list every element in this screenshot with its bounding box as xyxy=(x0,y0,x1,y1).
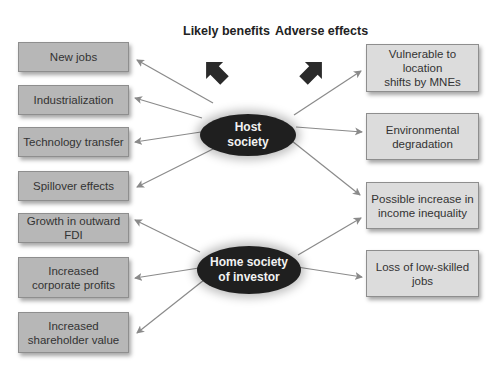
benefit-label-line: shareholder value xyxy=(28,333,119,347)
fdi-effects-diagram: Likely benefits Adverse effects New jobs… xyxy=(0,0,504,374)
adverse-box-income-inequality: Possible increase in income inequality xyxy=(366,182,479,229)
adverse-box-location-shifts: Vulnerable to location shifts by MNEs xyxy=(366,44,479,92)
adverse-label-line: shifts by MNEs xyxy=(384,75,461,89)
adverse-block-arrow-icon xyxy=(295,54,330,89)
likely-benefits-heading: Likely benefits xyxy=(183,24,270,38)
arrow-host-new-jobs xyxy=(137,60,213,103)
host-label-line: Host xyxy=(235,120,262,135)
benefit-box-spillover-effects: Spillover effects xyxy=(18,171,129,201)
adverse-label-line: Vulnerable to location xyxy=(371,47,474,75)
arrow-host-environmental xyxy=(296,127,362,132)
adverse-label-line: Possible increase in xyxy=(371,192,473,206)
benefit-box-outward-fdi: Growth in outward FDI xyxy=(18,213,129,243)
adverse-box-low-skilled-jobs: Loss of low-skilled jobs xyxy=(366,250,479,297)
benefit-box-shareholder-value: Increased shareholder value xyxy=(18,312,129,353)
adverse-label-line: Loss of low-skilled xyxy=(376,260,469,274)
home-label-line: Home society xyxy=(210,255,288,270)
benefit-box-corporate-profits: Increased corporate profits xyxy=(18,257,129,298)
benefit-label: Technology transfer xyxy=(23,135,123,149)
adverse-effects-heading: Adverse effects xyxy=(275,24,368,38)
arrow-home-corporate-profits xyxy=(135,268,199,278)
arrow-home-outward-fdi xyxy=(135,220,200,252)
benefit-label: Spillover effects xyxy=(33,179,114,193)
home-society-node: Home society of investor xyxy=(197,246,301,294)
arrow-host-industrialization xyxy=(135,98,202,118)
benefit-label-line: Increased xyxy=(48,264,99,278)
adverse-label-line: jobs xyxy=(412,274,433,288)
benefit-box-new-jobs: New jobs xyxy=(18,42,129,72)
arrow-home-inequality xyxy=(298,218,361,255)
adverse-label-line: income inequality xyxy=(378,206,467,220)
benefits-block-arrow-icon xyxy=(198,54,233,89)
benefit-box-technology-transfer: Technology transfer xyxy=(18,127,129,157)
benefit-label-line: corporate profits xyxy=(32,278,115,292)
arrow-host-technology-transfer xyxy=(135,132,201,142)
arrow-host-spillover xyxy=(137,148,215,187)
adverse-label-line: degradation xyxy=(392,137,453,151)
benefit-box-industrialization: Industrialization xyxy=(18,85,129,115)
benefit-label: Industrialization xyxy=(34,93,114,107)
benefit-label: Growth in outward FDI xyxy=(23,214,124,242)
arrow-home-low-skilled xyxy=(297,267,362,277)
adverse-box-environmental: Environmental degradation xyxy=(366,113,479,160)
adverse-label-line: Environmental xyxy=(386,123,460,137)
home-label-line: of investor xyxy=(218,270,279,285)
benefit-label: New jobs xyxy=(50,50,97,64)
arrow-host-inequality xyxy=(292,141,360,195)
host-society-node: Host society xyxy=(200,114,296,156)
benefit-label-line: Increased xyxy=(48,319,99,333)
host-label-line: society xyxy=(227,135,268,150)
arrow-home-shareholder-value xyxy=(137,280,204,333)
